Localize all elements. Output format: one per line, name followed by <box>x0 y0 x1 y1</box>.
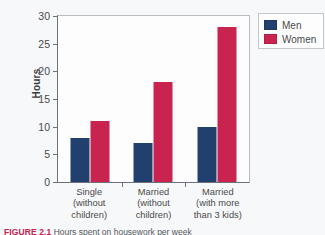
plot-inner: 051015202530 <box>58 16 249 182</box>
x-axis-category-line: than 3 kids) <box>186 210 250 221</box>
x-axis-category-line: Single <box>57 187 121 198</box>
legend-item-men[interactable]: Men <box>264 18 323 32</box>
y-axis-tick-label: 15 <box>38 93 50 105</box>
bar-men[interactable] <box>134 143 153 182</box>
legend-label-men: Men <box>282 20 301 31</box>
bar-women[interactable] <box>154 82 173 182</box>
x-axis-category-line: (without <box>121 198 185 209</box>
bar-women[interactable] <box>90 121 109 182</box>
legend-swatch-men <box>264 20 277 30</box>
bar-women[interactable] <box>218 27 237 182</box>
x-axis-category-line: Married <box>121 187 185 198</box>
y-axis-tick <box>53 182 58 183</box>
x-axis-category-label: Married(withoutchildren) <box>121 187 185 221</box>
figure-caption-text: Hours spent on housework per week <box>54 227 192 235</box>
bar-group-inner <box>70 16 109 182</box>
y-axis-tick-label: 20 <box>38 65 50 77</box>
bar-group <box>122 16 186 182</box>
legend: Men Women <box>258 13 324 49</box>
bar-men[interactable] <box>70 138 89 182</box>
bar-men[interactable] <box>198 127 217 182</box>
y-axis-tick-label: 0 <box>44 176 50 188</box>
legend-swatch-women <box>264 34 277 44</box>
y-axis-tick-label: 30 <box>38 10 50 22</box>
figure-caption: FIGURE 2.1 Hours spent on housework per … <box>4 227 192 235</box>
x-axis-category-line: (with more <box>186 198 250 209</box>
legend-item-women[interactable]: Women <box>264 32 323 46</box>
figure-number: FIGURE 2.1 <box>4 227 51 235</box>
x-axis-category-label: Married(with morethan 3 kids) <box>186 187 250 221</box>
x-axis-category-line: (without <box>57 198 121 209</box>
x-axis-category-line: children) <box>57 210 121 221</box>
plot-area: 051015202530 <box>57 15 250 183</box>
x-axis-category-line: Married <box>186 187 250 198</box>
bar-group <box>185 16 249 182</box>
x-axis-category-line: children) <box>121 210 185 221</box>
bar-group <box>58 16 122 182</box>
legend-label-women: Women <box>282 34 316 45</box>
figure-container: Hours 051015202530 Single(withoutchildre… <box>0 0 325 235</box>
bar-group-inner <box>198 16 237 182</box>
bar-group-inner <box>134 16 173 182</box>
x-axis-category-label: Single(withoutchildren) <box>57 187 121 221</box>
y-axis-tick-label: 10 <box>38 121 50 133</box>
y-axis-tick-label: 5 <box>44 148 50 160</box>
y-axis-tick-label: 25 <box>38 38 50 50</box>
